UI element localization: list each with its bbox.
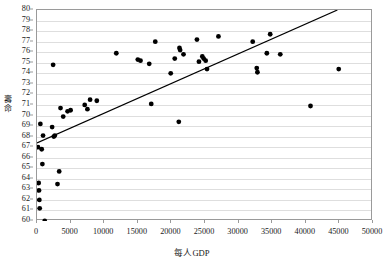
y-tick-mark xyxy=(30,19,33,20)
data-point xyxy=(37,181,41,186)
x-tick-mark xyxy=(36,220,37,223)
data-point xyxy=(205,67,210,72)
y-tick-mark xyxy=(30,167,33,168)
y-axis: 6061626364656667686970717273747576777879… xyxy=(0,9,33,220)
y-tick-mark xyxy=(30,93,33,94)
y-tick-mark xyxy=(30,114,33,115)
data-point xyxy=(51,62,56,67)
y-tick-mark xyxy=(30,9,33,10)
data-point xyxy=(278,52,283,57)
x-axis-title: 每人GDP xyxy=(0,246,384,258)
x-tick-mark xyxy=(238,220,239,223)
y-tick-mark xyxy=(30,30,33,31)
data-point xyxy=(38,122,43,127)
x-tick-label: 50000 xyxy=(362,227,382,236)
x-axis: 0500010000150002000025000300003500040000… xyxy=(36,220,372,240)
data-point xyxy=(216,34,221,39)
x-tick-label: 10000 xyxy=(93,227,113,236)
data-point xyxy=(88,97,93,102)
y-tick-label: 76 xyxy=(22,47,30,55)
data-point xyxy=(268,32,273,37)
y-tick-label: 79 xyxy=(22,16,30,24)
y-tick-label: 73 xyxy=(22,79,30,87)
y-tick-mark xyxy=(30,220,33,221)
y-tick-label: 61 xyxy=(22,205,30,213)
y-tick-mark xyxy=(30,103,33,104)
x-tick-mark xyxy=(137,220,138,223)
data-point xyxy=(37,188,41,193)
y-tick-mark xyxy=(30,40,33,41)
x-tick-mark xyxy=(338,220,339,223)
data-point xyxy=(250,39,255,44)
data-point xyxy=(82,103,87,108)
y-tick-mark xyxy=(30,177,33,178)
y-tick-label: 71 xyxy=(22,100,30,108)
y-tick-mark xyxy=(30,61,33,62)
x-tick-mark xyxy=(170,220,171,223)
y-tick-label: 80 xyxy=(22,5,30,13)
y-tick-label: 77 xyxy=(22,37,30,45)
y-tick-label: 63 xyxy=(22,184,30,192)
x-tick-mark xyxy=(70,220,71,223)
data-point xyxy=(264,51,269,56)
data-point xyxy=(197,59,202,64)
data-point xyxy=(153,39,158,44)
y-tick-mark xyxy=(30,209,33,210)
data-point xyxy=(50,125,55,130)
data-point xyxy=(57,169,62,174)
data-point xyxy=(85,107,90,112)
data-point xyxy=(39,147,44,152)
y-tick-mark xyxy=(30,125,33,126)
x-tick-label: 40000 xyxy=(295,227,315,236)
x-tick-mark xyxy=(204,220,205,223)
data-point xyxy=(308,104,313,109)
y-tick-label: 78 xyxy=(22,26,30,34)
data-layer xyxy=(37,10,373,221)
data-point xyxy=(336,67,341,72)
data-point xyxy=(138,58,143,63)
y-tick-label: 64 xyxy=(22,174,30,182)
data-point xyxy=(203,58,208,63)
data-point xyxy=(58,106,63,111)
x-tick-label: 45000 xyxy=(328,227,348,236)
data-point xyxy=(254,66,259,71)
data-point xyxy=(178,48,183,53)
y-tick-mark xyxy=(30,72,33,73)
data-point xyxy=(41,133,46,138)
y-tick-label: 70 xyxy=(22,111,30,119)
x-tick-mark xyxy=(271,220,272,223)
data-point xyxy=(68,108,73,113)
trendline xyxy=(37,10,337,143)
x-tick-mark xyxy=(305,220,306,223)
y-tick-label: 69 xyxy=(22,121,30,129)
y-tick-mark xyxy=(30,51,33,52)
data-point xyxy=(172,56,177,61)
data-point xyxy=(147,61,152,66)
x-tick-mark xyxy=(103,220,104,223)
y-tick-mark xyxy=(30,146,33,147)
y-tick-label: 67 xyxy=(22,142,30,150)
data-point xyxy=(61,114,66,119)
y-tick-label: 65 xyxy=(22,163,30,171)
y-tick-label: 75 xyxy=(22,58,30,66)
data-point xyxy=(40,162,45,167)
data-point xyxy=(181,52,186,57)
x-tick-label: 0 xyxy=(34,227,38,236)
y-tick-mark xyxy=(30,156,33,157)
data-point xyxy=(176,119,181,124)
x-tick-label: 25000 xyxy=(194,227,214,236)
x-tick-label: 30000 xyxy=(227,227,247,236)
y-tick-label: 68 xyxy=(22,132,30,140)
y-tick-label: 60 xyxy=(22,216,30,224)
data-point xyxy=(195,37,200,42)
y-tick-mark xyxy=(30,82,33,83)
x-tick-label: 15000 xyxy=(127,227,147,236)
data-point xyxy=(52,133,57,138)
plot-area xyxy=(36,9,372,220)
data-point xyxy=(55,182,60,187)
data-point xyxy=(37,206,42,211)
x-tick-label: 20000 xyxy=(160,227,180,236)
data-point xyxy=(149,101,154,106)
data-point xyxy=(114,51,119,56)
x-tick-label: 35000 xyxy=(261,227,281,236)
